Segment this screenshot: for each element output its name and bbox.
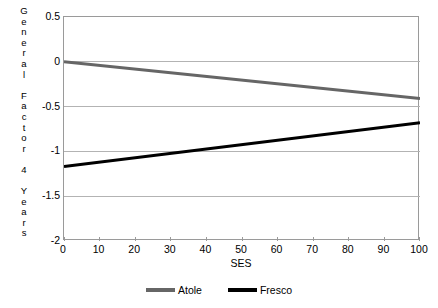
x-axis-tick-label: 60 bbox=[271, 243, 283, 255]
x-axis-tick-label: 50 bbox=[235, 243, 247, 255]
x-axis-tick-label: 10 bbox=[93, 243, 105, 255]
legend-label: Fresco bbox=[260, 284, 292, 296]
x-axis-tick-labels: 0102030405060708090100 bbox=[63, 243, 419, 257]
x-axis-tick-label: 30 bbox=[164, 243, 176, 255]
legend-item[interactable]: Fresco bbox=[228, 284, 292, 296]
x-axis-tick-label: 90 bbox=[378, 243, 390, 255]
y-axis-tick-label: 0 bbox=[54, 55, 60, 66]
plot-canvas bbox=[64, 17, 420, 241]
x-axis-tick-label: 70 bbox=[306, 243, 318, 255]
y-axis-tick-label: -1 bbox=[51, 145, 60, 156]
legend-line-swatch-icon bbox=[228, 288, 257, 292]
y-axis-tick-label: -1.5 bbox=[42, 190, 60, 201]
x-axis-tick-label: 20 bbox=[128, 243, 140, 255]
y-axis-tick-label: -2 bbox=[51, 235, 60, 246]
x-axis-tick-label: 100 bbox=[410, 243, 428, 255]
chart-legend: AtoleFresco bbox=[0, 284, 438, 296]
legend-line-swatch-icon bbox=[146, 288, 175, 292]
series-line-atole bbox=[64, 62, 420, 99]
series-line-fresco bbox=[64, 123, 420, 167]
x-axis-tick-label: 80 bbox=[342, 243, 354, 255]
y-axis-tick-label: 0.5 bbox=[45, 11, 60, 22]
x-axis-tick-label: 40 bbox=[200, 243, 212, 255]
y-axis-tick-labels: 0.50-0.5-1-1.5-2 bbox=[22, 0, 60, 308]
plot-area bbox=[63, 16, 419, 240]
legend-label: Atole bbox=[178, 284, 202, 296]
line-chart: GeneralFactor4Years 0.50-0.5-1-1.5-2 010… bbox=[0, 0, 438, 308]
x-axis-title: SES bbox=[63, 257, 419, 269]
legend-item[interactable]: Atole bbox=[146, 284, 202, 296]
y-axis-tick-label: -0.5 bbox=[42, 100, 60, 111]
x-axis-tick-label: 0 bbox=[60, 243, 66, 255]
